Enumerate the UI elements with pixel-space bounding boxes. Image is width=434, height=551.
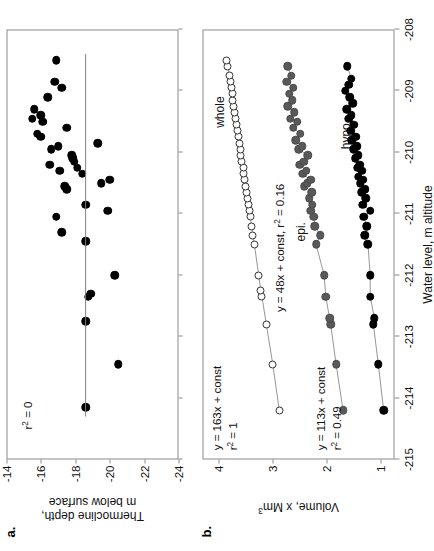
data-point [33, 129, 42, 138]
data-point [363, 240, 372, 249]
data-point [96, 178, 105, 187]
x-tick [394, 274, 399, 275]
data-point [62, 123, 71, 132]
data-point [370, 313, 379, 322]
x-tick-label: -209 [402, 79, 414, 102]
y-tick [75, 459, 76, 463]
data-point [379, 406, 388, 415]
data-point [81, 317, 90, 326]
r2-whole: r2 = 1 [225, 422, 239, 450]
x-tick [178, 335, 182, 336]
data-point [303, 151, 312, 160]
y-tick-label: 2 [320, 465, 332, 495]
x-axis-title: Water level, m altitude [420, 29, 434, 459]
data-point [365, 206, 374, 215]
y-tick [326, 459, 327, 463]
panel-a-y-axis-title-text: Thermocline depth,m below surface [6, 493, 178, 521]
series-label-epi: epi. [293, 222, 307, 241]
y-tick [40, 459, 41, 463]
data-point [52, 55, 61, 64]
panel-b: b. 1234 wholeepi.hypo.y = 163x + constr2… [198, 0, 426, 551]
x-tick [178, 89, 182, 90]
data-point [225, 71, 233, 79]
data-point [105, 175, 114, 184]
x-tick-label: -212 [402, 263, 414, 286]
data-point [250, 240, 258, 248]
data-point [283, 62, 292, 71]
data-point [254, 271, 262, 279]
data-point [114, 360, 123, 369]
data-point [268, 360, 276, 368]
y-tick [380, 459, 381, 463]
x-tick [394, 397, 399, 398]
data-point [310, 221, 319, 230]
equation-hypo: y = 113x + const [314, 366, 326, 450]
data-point [222, 56, 230, 64]
data-point [331, 360, 340, 369]
x-tick [394, 212, 399, 213]
data-point [50, 77, 59, 86]
data-point [81, 237, 90, 246]
data-point [57, 227, 66, 236]
data-point [306, 175, 315, 184]
data-point [81, 200, 90, 209]
data-point [28, 114, 37, 123]
y-tick-label: 1 [374, 465, 386, 495]
data-point [319, 270, 328, 279]
x-tick-label: -213 [402, 325, 414, 348]
data-point [45, 160, 54, 169]
x-tick-label: -210 [402, 140, 414, 163]
panel-a: a. -14-16-18-20-22-24 r2 = 0 Thermocline… [0, 0, 198, 551]
data-point [311, 240, 320, 249]
panel-b-letter: b. [198, 525, 213, 537]
data-point [343, 62, 352, 71]
y-tick [272, 459, 273, 463]
x-tick [394, 89, 399, 90]
x-tick-label: -215 [402, 447, 414, 470]
data-point [55, 166, 64, 175]
x-tick [178, 28, 182, 29]
data-point [365, 270, 374, 279]
x-tick [394, 458, 399, 459]
x-tick [394, 335, 399, 336]
x-tick-label: -208 [402, 17, 414, 40]
data-point [103, 206, 112, 215]
y-tick-label: 4 [212, 465, 224, 495]
x-tick-label: -214 [402, 386, 414, 409]
data-point [286, 71, 295, 80]
x-tick [178, 397, 182, 398]
panel-a-r2-annotation: r2 = 0 [20, 401, 34, 429]
panel-a-letter: a. [2, 526, 17, 537]
r2-hypo: r2 = 0.49 [329, 406, 343, 450]
y-tick [178, 459, 179, 463]
series-label-whole: whole [212, 96, 226, 127]
data-point [365, 292, 374, 301]
equation-epi: y = 48x + const, r2 = 0.16 [272, 183, 286, 311]
data-point [52, 212, 61, 221]
data-point [362, 221, 371, 230]
data-point [307, 188, 316, 197]
data-point [53, 141, 62, 150]
y-tick [6, 459, 7, 463]
data-point [29, 105, 38, 114]
data-point [93, 138, 102, 147]
x-tick [394, 28, 399, 29]
data-point [248, 231, 256, 239]
data-point [346, 74, 355, 83]
data-point [86, 289, 95, 298]
panel-a-plot-area [6, 29, 178, 459]
data-point [81, 403, 90, 412]
equation-whole: y = 163x + const [210, 365, 222, 449]
y-tick-label: 3 [266, 465, 278, 495]
data-point [325, 313, 334, 322]
y-tick [144, 459, 145, 463]
x-tick [394, 151, 399, 152]
data-point [110, 270, 119, 279]
data-point [374, 360, 383, 369]
data-point [262, 320, 270, 328]
data-point [67, 151, 76, 160]
y-tick [109, 459, 110, 463]
data-point [247, 222, 255, 230]
x-tick-label: -211 [402, 202, 414, 224]
